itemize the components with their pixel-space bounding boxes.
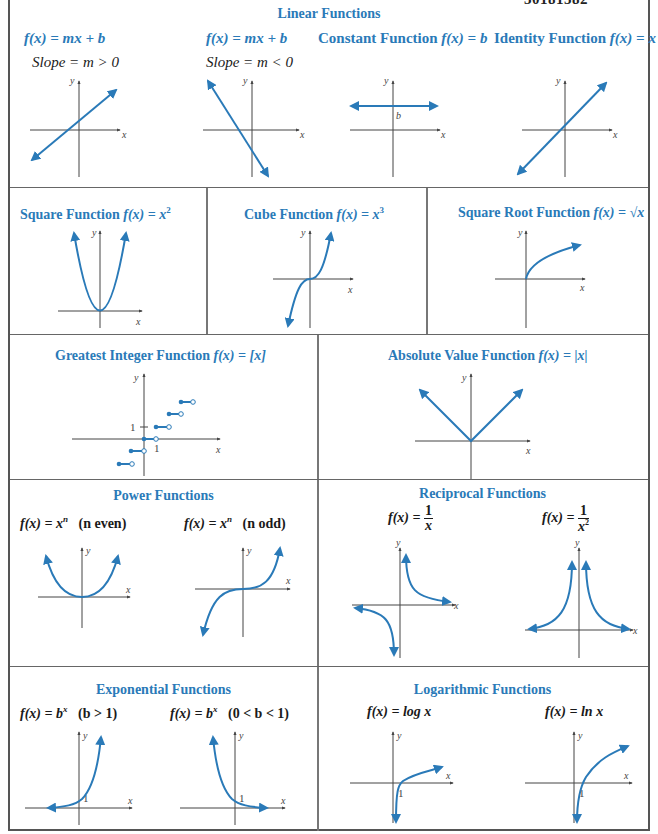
section-title-power: Power Functions	[10, 488, 317, 504]
svg-text:y: y	[383, 75, 389, 86]
section-title-reciprocal: Reciprocal Functions	[317, 486, 648, 502]
section-title-exponential: Exponential Functions	[10, 682, 317, 698]
svg-text:y: y	[574, 537, 580, 548]
svg-text:x: x	[623, 770, 629, 781]
svg-text:y: y	[246, 545, 252, 556]
graph-absolute-value-function: x y	[410, 371, 550, 481]
power-odd-label: f(x) = xn (n odd)	[184, 514, 286, 532]
absolute-value-function-label: Absolute Value Function f(x) = |x|	[388, 348, 588, 364]
graph-linear-positive-slope: x y	[20, 75, 150, 185]
svg-text:y: y	[242, 75, 248, 86]
reciprocal-x-label: f(x) = 1x	[388, 504, 433, 533]
svg-text:y: y	[517, 227, 523, 238]
graph-greatest-integer-function: x y 1 1	[70, 371, 240, 481]
svg-text:x: x	[127, 795, 133, 806]
section-linear-functions: Linear Functions f(x) = mx + b Slope = m…	[10, 0, 648, 188]
log-label: f(x) = log x	[367, 704, 431, 720]
divider	[317, 480, 319, 666]
svg-text:y: y	[69, 75, 75, 86]
svg-text:y: y	[133, 372, 139, 383]
svg-text:1: 1	[154, 442, 160, 454]
svg-text:x: x	[579, 282, 585, 293]
exponential-growth-label: f(x) = bx (b > 1)	[20, 704, 117, 722]
square-function-label: Square Function f(x) = x2	[20, 205, 171, 223]
svg-text:x: x	[612, 129, 618, 140]
svg-text:x: x	[525, 445, 531, 456]
section-title: Linear Functions	[10, 6, 648, 22]
section-row-5: Exponential Functions f(x) = bx (b > 1) …	[10, 667, 648, 831]
svg-text:x: x	[125, 584, 131, 595]
svg-text:x: x	[215, 444, 221, 455]
constant-function-label: Constant Function f(x) = b	[318, 30, 487, 47]
svg-text:y: y	[555, 75, 561, 86]
graph-reciprocal-1-over-x-squared: x y	[523, 540, 643, 665]
svg-text:x: x	[440, 129, 446, 140]
svg-text:x: x	[347, 284, 353, 295]
graph-constant-function: x y b	[345, 75, 475, 185]
svg-text:x: x	[285, 575, 291, 586]
svg-text:b: b	[396, 110, 401, 121]
graph-square-function: x y	[50, 228, 160, 333]
svg-text:1: 1	[239, 792, 245, 804]
reference-card: Linear Functions f(x) = mx + b Slope = m…	[8, 0, 650, 831]
graph-power-even: x y	[30, 540, 140, 640]
divider	[317, 335, 319, 479]
slope-label: Slope = m > 0	[32, 54, 119, 71]
square-root-function-label: Square Root Function f(x) = √x	[458, 205, 644, 221]
svg-text:y: y	[82, 730, 88, 741]
svg-text:x: x	[299, 129, 305, 140]
identity-function-label: Identity Function f(x) = x	[494, 30, 656, 47]
greatest-integer-function-label: Greatest Integer Function f(x) = [x]	[55, 348, 266, 364]
graph-power-odd: x y	[190, 540, 300, 645]
ln-label: f(x) = ln x	[545, 704, 603, 720]
graph-log: x y 1	[345, 729, 465, 829]
svg-text:y: y	[238, 730, 244, 741]
section-row-3: Greatest Integer Function f(x) = [x] x y…	[10, 335, 648, 480]
svg-text:y: y	[85, 545, 91, 556]
svg-text:y: y	[396, 730, 402, 741]
section-row-2: Square Function f(x) = x2 x y Cube Funct…	[10, 188, 648, 335]
svg-text:x: x	[280, 795, 286, 806]
graph-exponential-decay: x y 1	[175, 729, 295, 829]
reciprocal-x-squared-label: f(x) = 1x2	[542, 504, 589, 534]
divider	[426, 188, 428, 334]
graph-identity-function: x y	[510, 75, 640, 185]
section-row-4: Power Functions f(x) = xn (n even) f(x) …	[10, 480, 648, 667]
formula-label: f(x) = mx + b	[24, 30, 105, 47]
step-segments	[117, 400, 196, 467]
graph-cube-function: x y	[268, 228, 368, 333]
svg-text:x: x	[453, 600, 459, 611]
svg-text:y: y	[300, 227, 306, 238]
svg-text:y: y	[461, 372, 467, 383]
graph-exponential-growth: x y 1	[20, 729, 140, 829]
svg-text:x: x	[121, 129, 127, 140]
svg-text:y: y	[91, 227, 97, 238]
graph-square-root-function: x y	[490, 228, 600, 333]
graph-reciprocal-1-over-x: x y	[350, 540, 470, 665]
svg-text:1: 1	[130, 421, 136, 433]
exponential-decay-label: f(x) = bx (0 < b < 1)	[170, 704, 289, 722]
svg-text:y: y	[395, 537, 401, 548]
graph-linear-negative-slope: x y	[193, 75, 323, 185]
svg-text:y: y	[577, 730, 583, 741]
divider	[206, 188, 208, 334]
slope-label: Slope = m < 0	[206, 54, 293, 71]
svg-text:x: x	[445, 770, 451, 781]
section-title-logarithmic: Logarithmic Functions	[317, 682, 648, 698]
power-even-label: f(x) = xn (n even)	[20, 514, 126, 532]
graph-ln: x y 1	[520, 729, 645, 829]
svg-text:x: x	[135, 316, 141, 327]
formula-label: f(x) = mx + b	[206, 30, 287, 47]
cube-function-label: Cube Function f(x) = x3	[244, 205, 384, 223]
svg-text:x: x	[632, 625, 638, 636]
